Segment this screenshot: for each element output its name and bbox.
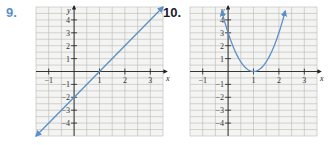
y-tick-label: 3	[220, 29, 224, 38]
y-tick-label: 1	[66, 55, 70, 64]
x-tick-label: 3	[302, 76, 306, 85]
x-tick-label: 3	[148, 76, 152, 85]
y-tick-label: −3	[216, 106, 225, 115]
x-axis-label: x	[319, 74, 324, 83]
x-tick-label: 2	[277, 76, 281, 85]
graph-9: −1123−4−3−2−11234xy	[0, 0, 170, 145]
y-tick-label: −4	[216, 119, 225, 128]
x-tick-label: −1	[198, 76, 207, 85]
y-tick-label: −3	[62, 106, 71, 115]
x-tick-label: −1	[44, 76, 53, 85]
y-tick-label: −2	[216, 93, 225, 102]
y-axis-label: y	[66, 6, 71, 15]
y-tick-label: −1	[62, 80, 71, 89]
y-tick-label: 2	[220, 42, 224, 51]
y-tick-label: −1	[216, 80, 225, 89]
y-tick-label: −2	[62, 93, 71, 102]
y-tick-label: 2	[66, 42, 70, 51]
x-tick-label: 1	[252, 76, 256, 85]
y-tick-label: −4	[62, 119, 71, 128]
graph-10: −1123−4−3−2−11234xy	[160, 0, 330, 145]
y-tick-label: 1	[220, 55, 224, 64]
x-tick-label: 2	[123, 76, 127, 85]
x-tick-label: 1	[98, 76, 102, 85]
y-tick-label: 3	[66, 29, 70, 38]
y-tick-label: 4	[66, 16, 70, 25]
